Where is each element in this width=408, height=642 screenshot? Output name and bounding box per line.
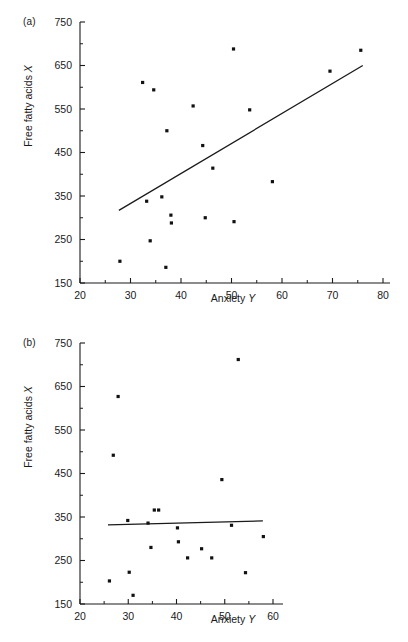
data-point [359,49,362,52]
y-tick-label: 450 [54,146,72,158]
x-tick-label: 60 [267,610,279,622]
x-tick-label: 70 [327,289,339,301]
panel-b: (b) Free fatty acids X Anxiety Y 1502503… [0,321,408,642]
data-point [149,546,152,549]
data-point [230,524,233,527]
panel-a-plot-area: 15025035045055065075020304050607080 [0,0,408,321]
data-point [149,239,152,242]
data-point [262,535,265,538]
x-tick-label: 50 [219,610,231,622]
data-point [200,547,203,550]
data-point [117,395,120,398]
data-point [170,221,173,224]
data-point [211,167,214,170]
y-tick-label: 250 [54,233,72,245]
data-point [160,195,163,198]
y-tick-label: 350 [54,190,72,202]
data-point [169,214,172,217]
data-point [153,508,156,511]
data-point [118,260,121,263]
y-tick-label: 250 [54,554,72,566]
data-point [201,144,204,147]
data-point [186,556,189,559]
regression-line [108,521,263,525]
panel-a: (a) Free fatty acids X Anxiety Y 1502503… [0,0,408,321]
data-point [210,556,213,559]
data-point [145,200,148,203]
data-point [192,104,195,107]
data-point [244,571,247,574]
data-point [176,526,179,529]
data-point [152,88,155,91]
y-tick-label: 550 [54,424,72,436]
y-tick-label: 150 [54,277,72,289]
y-tick-label: 750 [54,337,72,349]
data-point [157,508,160,511]
data-point [164,266,167,269]
x-tick-label: 30 [125,289,137,301]
data-point [108,579,111,582]
data-point [128,571,131,574]
x-tick-label: 40 [171,610,183,622]
y-tick-label: 650 [54,380,72,392]
data-point [232,47,235,50]
data-point [220,478,223,481]
y-tick-label: 350 [54,511,72,523]
x-tick-label: 20 [74,610,86,622]
data-point [165,129,168,132]
regression-line [119,66,363,211]
data-point [141,81,144,84]
y-tick-label: 150 [54,598,72,610]
scatter-plot-figure: (a) Free fatty acids X Anxiety Y 1502503… [0,0,408,642]
y-tick-label: 450 [54,467,72,479]
data-point [112,454,115,457]
x-tick-label: 20 [74,289,86,301]
data-point [237,358,240,361]
data-point [146,521,149,524]
x-tick-label: 40 [175,289,187,301]
data-point [232,220,235,223]
x-tick-label: 50 [226,289,238,301]
data-point [177,540,180,543]
y-tick-label: 550 [54,103,72,115]
panel-b-plot-area: 1502503504505506507502030405060 [0,321,408,642]
data-point [271,180,274,183]
data-point [204,216,207,219]
data-point [248,108,251,111]
x-tick-label: 80 [377,289,389,301]
data-point [131,594,134,597]
data-point [126,519,129,522]
y-tick-label: 750 [54,16,72,28]
x-tick-label: 60 [276,289,288,301]
data-point [328,70,331,73]
y-tick-label: 650 [54,59,72,71]
x-tick-label: 30 [122,610,134,622]
